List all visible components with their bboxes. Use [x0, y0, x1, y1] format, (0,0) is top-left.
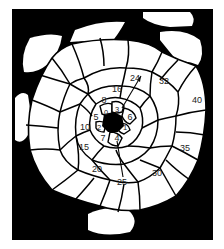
- label-2: 2: [97, 123, 101, 132]
- label-6: 6: [127, 112, 132, 122]
- label-25: 25: [117, 177, 127, 187]
- label-30: 30: [152, 168, 162, 178]
- label-40: 40: [192, 95, 202, 105]
- label-8: 8: [101, 95, 106, 105]
- label-20: 20: [92, 164, 102, 174]
- label-5: 5: [93, 112, 98, 122]
- label-35: 35: [180, 143, 190, 153]
- label-4: 4: [114, 133, 119, 143]
- label-3: 3: [115, 105, 119, 114]
- phyllotaxis-diagram: 0 1 2 3 4 5 6 7 8 10 15 16 20 24 25 30 3…: [0, 0, 224, 249]
- label-15: 15: [79, 142, 89, 152]
- label-10: 10: [80, 122, 90, 132]
- label-24: 24: [130, 73, 140, 83]
- label-1: 1: [123, 123, 127, 132]
- label-32: 32: [159, 76, 169, 86]
- label-16: 16: [112, 84, 122, 94]
- label-7: 7: [100, 133, 105, 143]
- label-0: 0: [104, 108, 108, 117]
